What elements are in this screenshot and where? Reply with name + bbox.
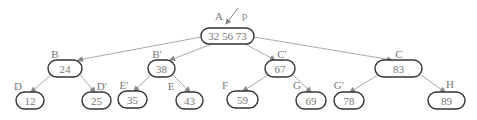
node-label: C′: [277, 48, 287, 60]
edge-A-C1: [245, 44, 275, 60]
tree-node-D1: 25D′: [82, 80, 111, 109]
node-label: D′: [97, 80, 107, 92]
node-keys: 59: [237, 94, 249, 106]
tree-node-B: 24B: [48, 48, 82, 77]
edge-C-H: [421, 75, 445, 92]
node-keys: 25: [91, 95, 103, 107]
edge-A-B1: [170, 44, 212, 60]
edge-B-D: [31, 75, 51, 92]
edge-A-B: [78, 37, 201, 60]
node-keys: 67: [275, 63, 287, 75]
node-label: B: [51, 48, 58, 60]
node-label: G: [293, 79, 301, 91]
tree-node-G1: 78G′: [334, 79, 364, 109]
pointer-arrow-icon: [226, 8, 238, 24]
node-keys: 83: [393, 63, 405, 75]
tree-node-G: 69G: [293, 79, 326, 109]
node-keys: 69: [306, 95, 318, 107]
tree-diagram: p 32 56 73A24B38B′67C′83C12D25D′35E′43E5…: [0, 0, 477, 120]
node-label: F: [222, 79, 228, 91]
node-label: E: [168, 80, 175, 92]
tree-node-H: 89H: [428, 78, 465, 109]
node-label: B′: [152, 48, 162, 60]
node-keys: 24: [60, 63, 72, 75]
node-keys: 32 56 73: [208, 30, 247, 42]
pointer-p: p: [226, 8, 248, 24]
edge-B-D1: [80, 75, 95, 92]
edge-C-G1: [350, 75, 378, 92]
node-keys: 38: [156, 63, 168, 75]
node-label: H: [446, 78, 454, 90]
edge-C1-F: [243, 75, 268, 91]
node-keys: 78: [344, 95, 356, 107]
tree-node-C: 83C: [375, 48, 422, 77]
node-label: G′: [334, 79, 344, 91]
node-keys: 43: [184, 95, 196, 107]
edge-A-C: [254, 37, 392, 60]
node-label: A: [215, 10, 223, 22]
edge-B1-E1: [134, 75, 151, 91]
tree-node-B1: 38B′: [148, 48, 175, 77]
node-keys: 12: [25, 95, 36, 107]
tree-node-F: 59F: [222, 79, 258, 108]
tree-node-E: 43E: [168, 80, 203, 109]
node-label: D: [14, 80, 22, 92]
node-label: C: [395, 48, 402, 60]
node-label: E′: [119, 79, 128, 91]
node-keys: 35: [127, 94, 139, 106]
edge-B1-E: [173, 75, 190, 92]
node-keys: 89: [441, 95, 453, 107]
tree-node-C1: 67C′: [265, 48, 295, 77]
pointer-label: p: [242, 9, 248, 21]
